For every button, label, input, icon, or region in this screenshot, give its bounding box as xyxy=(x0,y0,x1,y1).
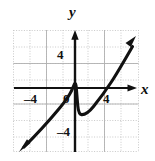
y-tick-label-4: 4 xyxy=(57,48,64,61)
x-tick-label-negative-4: –4 xyxy=(24,92,37,105)
x-tick-label-4: 4 xyxy=(103,92,110,105)
x-axis-label: x xyxy=(141,82,149,97)
y-tick-label-negative-4: –4 xyxy=(57,125,70,138)
graph-canvas xyxy=(0,0,155,161)
curve-arrow-upper-right xyxy=(126,36,137,47)
graph-figure: y x 4 –4 4 –4 0 xyxy=(0,0,155,161)
y-axis-label: y xyxy=(69,5,76,20)
origin-label: 0 xyxy=(63,92,70,105)
